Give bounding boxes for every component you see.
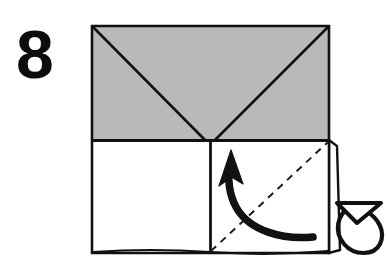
step-number-label: 8 xyxy=(16,16,54,92)
turn-over-loop-arrow xyxy=(337,203,382,253)
diagram-canvas: 8 xyxy=(0,0,387,265)
paper-square xyxy=(92,26,329,254)
upper-shaded-region xyxy=(92,26,329,140)
origami-step-diagram: 8 xyxy=(0,0,387,265)
